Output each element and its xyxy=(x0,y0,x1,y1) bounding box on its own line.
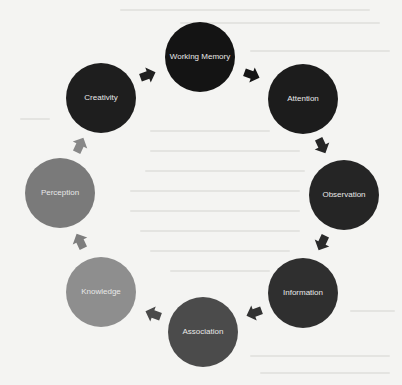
arrow-icon xyxy=(313,234,331,252)
node-perception: Perception xyxy=(25,158,95,228)
node-knowledge: Knowledge xyxy=(66,257,136,327)
arrow-icon xyxy=(71,136,89,154)
arrow-icon xyxy=(144,305,162,323)
node-association: Association xyxy=(168,297,238,367)
node-creativity: Creativity xyxy=(66,63,136,133)
node-observation: Observation xyxy=(309,160,379,230)
arrow-icon xyxy=(245,304,263,322)
node-working-memory: Working Memory xyxy=(165,22,235,92)
arrow-icon xyxy=(71,232,89,250)
node-attention: Attention xyxy=(268,64,338,134)
node-information: Information xyxy=(268,258,338,328)
arrow-icon xyxy=(313,137,331,155)
arrow-icon xyxy=(139,66,157,84)
arrow-icon xyxy=(243,66,261,84)
